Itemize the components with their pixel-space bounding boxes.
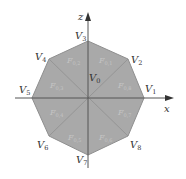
z-axis-label: z — [77, 11, 84, 22]
vertex-label-v5: V5 — [19, 84, 30, 97]
vertex-label-v2: V2 — [131, 54, 142, 67]
vertex-label-v1: V1 — [145, 83, 156, 96]
vertex-label-v4: V4 — [35, 51, 46, 64]
vertex-label-v8: V8 — [130, 139, 141, 152]
x-axis-arrow-icon — [165, 95, 174, 101]
octagon-diagram: x z V0 V1 V2 V3 V4 V5 V6 V7 V8 F0,1 F0,2… — [0, 0, 186, 179]
vertex-label-v7: V7 — [76, 154, 87, 167]
z-axis-arrow-icon — [85, 12, 91, 21]
vertex-label-v3: V3 — [75, 30, 86, 43]
x-axis-label: x — [164, 103, 170, 114]
vertex-label-v6: V6 — [37, 139, 48, 152]
